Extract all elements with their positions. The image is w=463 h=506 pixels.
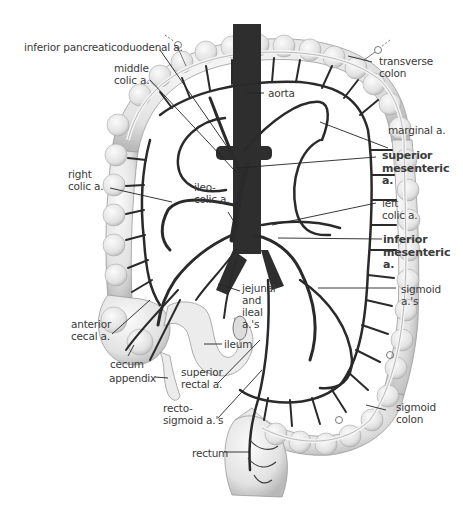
- label-line: ileum: [224, 338, 252, 350]
- label-inferior-pancreaticoduodenal-artery: inferior pancreaticoduodenal a.: [24, 41, 183, 53]
- label-line: inferior: [383, 234, 450, 247]
- label-line: sigmoid: [401, 283, 441, 295]
- label-inferior-mesenteric-artery: inferior mesenteric a.: [383, 234, 450, 272]
- label-line: and: [242, 294, 276, 306]
- label-aorta: aorta: [268, 87, 295, 99]
- label-transverse-colon: transverse colon: [379, 55, 433, 79]
- label-line: superior: [181, 366, 223, 378]
- label-ileum: ileum: [224, 338, 252, 350]
- label-jejunal-ileal-arteries: jejunal and ileal a.'s: [242, 282, 276, 330]
- label-line: appendix: [109, 372, 156, 384]
- label-line: colon: [396, 413, 436, 425]
- label-left-colic-artery: left colic a.: [382, 197, 417, 221]
- label-anterior-cecal-artery: anterior cecal a.: [71, 318, 111, 342]
- label-line: aorta: [268, 87, 295, 99]
- label-line: rectum: [192, 447, 228, 459]
- label-superior-mesenteric-artery: superior mesenteric a.: [382, 150, 449, 188]
- label-superior-rectal-artery: superior rectal a.: [181, 366, 223, 390]
- label-line: colic a.: [68, 180, 103, 192]
- label-ileocolic-artery: ileo- colic a.: [194, 181, 229, 205]
- label-line: marginal a.: [388, 124, 445, 136]
- label-line: rectal a.: [181, 378, 223, 390]
- label-line: middle: [114, 62, 149, 74]
- label-line: sigmoid a.'s: [163, 414, 223, 426]
- label-line: colic a.: [114, 74, 149, 86]
- label-sigmoid-colon: sigmoid colon: [396, 401, 436, 425]
- label-middle-colic-artery: middle colic a.: [114, 62, 149, 86]
- label-line: superior: [382, 150, 449, 163]
- colon-arterial-supply-diagram: inferior pancreaticoduodenal a. middle c…: [0, 0, 463, 506]
- label-sigmoid-arteries: sigmoid a.'s: [401, 283, 441, 307]
- label-line: jejunal: [242, 282, 276, 294]
- label-line: colic a.: [382, 209, 417, 221]
- label-marginal-artery: marginal a.: [388, 124, 445, 136]
- label-line: transverse: [379, 55, 433, 67]
- label-line: cecal a.: [71, 330, 111, 342]
- label-line: cecum: [110, 358, 144, 370]
- appendix: [160, 352, 180, 400]
- label-line: ileo-: [194, 181, 229, 193]
- label-rectosigmoid-arteries: recto- sigmoid a.'s: [163, 402, 223, 426]
- label-line: a.'s: [401, 295, 441, 307]
- label-right-colic-artery: right colic a.: [68, 168, 103, 192]
- label-line: a.'s: [242, 318, 276, 330]
- label-line: right: [68, 168, 103, 180]
- label-line: anterior: [71, 318, 111, 330]
- label-line: a.: [383, 259, 450, 272]
- label-line: inferior pancreaticoduodenal a.: [24, 41, 183, 53]
- label-line: sigmoid: [396, 401, 436, 413]
- label-line: a.: [382, 175, 449, 188]
- label-cecum: cecum: [110, 358, 144, 370]
- label-line: colic a.: [194, 193, 229, 205]
- label-appendix: appendix: [109, 372, 156, 384]
- label-rectum: rectum: [192, 447, 228, 459]
- label-line: recto-: [163, 402, 223, 414]
- label-line: colon: [379, 67, 433, 79]
- label-line: ileal: [242, 306, 276, 318]
- label-line: left: [382, 197, 417, 209]
